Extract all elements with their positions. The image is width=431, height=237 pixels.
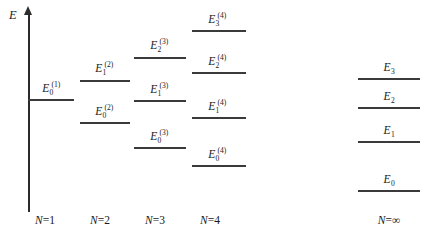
energy-level-label: E0(3) [150, 131, 170, 143]
energy-level-line [358, 78, 420, 80]
caption-n-symbol: N [200, 214, 208, 226]
caption-n-value: ∞ [392, 214, 400, 226]
level-superscript: (2) [104, 60, 113, 69]
column-caption-ninf: N=∞ [378, 214, 400, 226]
caption-n-value: 1 [49, 214, 55, 226]
caption-n-value: 2 [104, 214, 110, 226]
level-subscript: 3 [391, 67, 395, 76]
energy-level-line [28, 99, 74, 101]
energy-level-line [358, 107, 420, 109]
column-caption-n3: N=3 [145, 214, 165, 226]
level-superscript: (3) [159, 128, 168, 137]
energy-level-line [358, 141, 420, 143]
level-symbol: E [42, 82, 49, 94]
level-symbol: E [95, 105, 102, 117]
energy-level-line [358, 190, 420, 192]
energy-level-label: E0(1) [42, 83, 62, 95]
level-symbol: E [384, 173, 391, 185]
energy-level-line [80, 122, 130, 124]
level-subscript: 2 [215, 61, 219, 70]
level-subscript: 1 [215, 106, 219, 115]
caption-n-symbol: N [35, 214, 43, 226]
level-superscript: (1) [51, 80, 60, 89]
energy-level-label: E1 [384, 125, 395, 137]
energy-level-label: E2 [384, 91, 395, 103]
energy-level-line [80, 80, 130, 82]
column-caption-n4: N=4 [200, 214, 220, 226]
level-subscript: 2 [391, 96, 395, 105]
energy-level-label: E0 [384, 174, 395, 186]
energy-level-line [192, 72, 246, 74]
level-symbol: E [384, 124, 391, 136]
energy-level-line [192, 30, 246, 32]
level-subscript: 0 [391, 179, 395, 188]
caption-n-symbol: N [145, 214, 153, 226]
level-superscript: (3) [159, 37, 168, 46]
level-subscript: 0 [215, 154, 219, 163]
energy-level-label: E0(2) [95, 106, 115, 118]
energy-level-line [134, 147, 186, 149]
level-symbol: E [208, 148, 215, 160]
level-symbol: E [150, 83, 157, 95]
level-subscript: 0 [49, 88, 53, 97]
energy-level-label: E1(3) [150, 84, 170, 96]
energy-level-line [134, 57, 186, 59]
energy-level-line [192, 117, 246, 119]
caption-n-value: 4 [214, 214, 220, 226]
energy-axis-label: E [9, 8, 17, 23]
level-subscript: 1 [102, 68, 106, 77]
energy-level-line [134, 100, 186, 102]
energy-level-label: E1(2) [95, 63, 115, 75]
level-subscript: 3 [215, 19, 219, 28]
energy-level-diagram: E E0(1)N=1E1(2)E0(2)N=2E2(3)E1(3)E0(3)N=… [0, 0, 431, 237]
energy-axis-line [28, 14, 30, 212]
energy-level-label: E3(4) [208, 14, 228, 26]
level-superscript: (4) [217, 11, 226, 20]
level-superscript: (4) [217, 146, 226, 155]
level-superscript: (2) [104, 103, 113, 112]
level-symbol: E [208, 100, 215, 112]
level-symbol: E [208, 13, 215, 25]
level-superscript: (3) [159, 81, 168, 90]
energy-level-label: E1(4) [208, 101, 228, 113]
level-symbol: E [150, 130, 157, 142]
level-superscript: (4) [217, 98, 226, 107]
energy-level-label: E2(3) [150, 40, 170, 52]
level-subscript: 0 [157, 136, 161, 145]
level-symbol: E [384, 90, 391, 102]
level-symbol: E [384, 61, 391, 73]
caption-n-value: 3 [159, 214, 165, 226]
energy-level-label: E3 [384, 62, 395, 74]
level-symbol: E [95, 62, 102, 74]
caption-n-symbol: N [90, 214, 98, 226]
level-subscript: 0 [102, 111, 106, 120]
level-superscript: (4) [217, 53, 226, 62]
level-subscript: 1 [157, 89, 161, 98]
energy-level-label: E2(4) [208, 56, 228, 68]
caption-n-symbol: N [378, 214, 386, 226]
level-subscript: 2 [157, 45, 161, 54]
column-caption-n1: N=1 [35, 214, 55, 226]
energy-level-line [192, 165, 246, 167]
energy-level-label: E0(4) [208, 149, 228, 161]
column-caption-n2: N=2 [90, 214, 110, 226]
level-subscript: 1 [391, 130, 395, 139]
level-symbol: E [150, 39, 157, 51]
level-symbol: E [208, 55, 215, 67]
energy-axis-arrow-icon [24, 6, 32, 15]
